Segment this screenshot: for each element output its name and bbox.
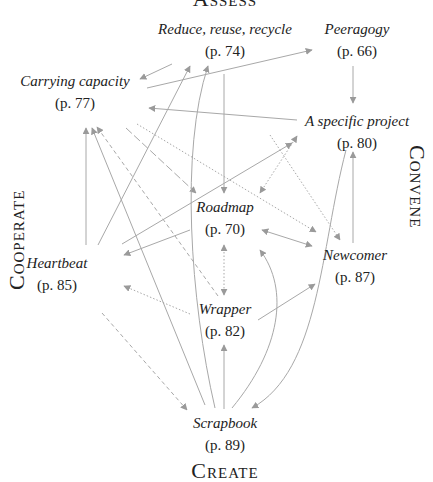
group-label-text: Create bbox=[191, 458, 258, 482]
node-title: Carrying capacity bbox=[10, 70, 140, 92]
node-page: (p. 85) bbox=[17, 274, 97, 296]
node-page: (p. 82) bbox=[180, 320, 270, 342]
node-newcomer[interactable]: Newcomer (p. 87) bbox=[310, 244, 400, 288]
edge-rrr-cc bbox=[140, 64, 172, 79]
node-page: (p. 80) bbox=[292, 132, 422, 154]
edge-cc-road bbox=[126, 128, 196, 193]
node-page: (p. 87) bbox=[310, 266, 400, 288]
node-page: (p. 66) bbox=[307, 40, 407, 62]
node-title: Wrapper bbox=[180, 298, 270, 320]
edge-heart-scrap bbox=[102, 313, 187, 410]
group-label-create: Create bbox=[160, 458, 290, 482]
node-page: (p. 74) bbox=[145, 40, 305, 62]
node-title: Roadmap bbox=[180, 196, 270, 218]
node-wrapper[interactable]: Wrapper (p. 82) bbox=[180, 298, 270, 342]
node-page: (p. 70) bbox=[180, 218, 270, 240]
edge-asp-cc bbox=[149, 108, 297, 120]
group-label-text: Convene bbox=[405, 145, 430, 228]
group-label-assess: Assess bbox=[160, 0, 290, 12]
edge-scrap-cc bbox=[92, 128, 205, 405]
node-a-specific-project[interactable]: A specific project (p. 80) bbox=[292, 110, 422, 154]
node-page: (p. 77) bbox=[10, 92, 140, 114]
node-title: Peeragogy bbox=[307, 18, 407, 40]
node-reduce-reuse-recycle[interactable]: Reduce, reuse, recycle (p. 74) bbox=[145, 18, 305, 62]
node-carrying-capacity[interactable]: Carrying capacity (p. 77) bbox=[10, 70, 140, 114]
node-title: A specific project bbox=[292, 110, 422, 132]
node-peeragogy[interactable]: Peeragogy (p. 66) bbox=[307, 18, 407, 62]
node-title: Scrapbook bbox=[180, 412, 270, 434]
node-title: Newcomer bbox=[310, 244, 400, 266]
group-label-text: Assess bbox=[193, 0, 257, 11]
node-title: Heartbeat bbox=[17, 252, 97, 274]
node-scrapbook[interactable]: Scrapbook (p. 89) bbox=[180, 412, 270, 456]
group-label-convene: Convene bbox=[404, 145, 430, 228]
node-heartbeat[interactable]: Heartbeat (p. 85) bbox=[17, 252, 97, 296]
node-title: Reduce, reuse, recycle bbox=[145, 18, 305, 40]
node-page: (p. 89) bbox=[180, 434, 270, 456]
node-roadmap[interactable]: Roadmap (p. 70) bbox=[180, 196, 270, 240]
